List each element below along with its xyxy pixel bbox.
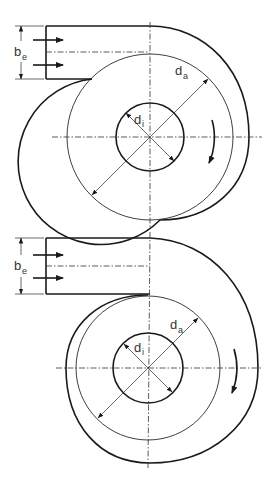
inner-diameter-subscript: i [142, 347, 144, 357]
inlet-duct [46, 26, 150, 79]
volute-diagram: b e d a d i [0, 0, 277, 489]
inner-diameter-subscript: i [142, 119, 144, 129]
volute-outer-wall [66, 238, 258, 463]
inner-diameter-label: d [134, 112, 141, 127]
inlet-width-subscript: e [22, 266, 27, 276]
outer-diameter-label: d [170, 317, 177, 332]
inlet-width-dimension: b e [14, 26, 44, 79]
inlet-width-dimension: b e [14, 238, 44, 294]
rotation-arrow-icon [232, 349, 237, 393]
rotation-arrow-icon [209, 120, 214, 163]
inner-diameter-label: d [134, 340, 141, 355]
vertical-centerline [148, 232, 150, 470]
bottom-view: b e d a d i [14, 232, 262, 470]
inlet-width-label: b [14, 44, 21, 59]
inlet-width-subscript: e [22, 52, 27, 62]
outer-diameter-subscript: a [183, 71, 188, 81]
outer-diameter-label: d [175, 63, 182, 78]
top-view: b e d a d i [14, 22, 262, 244]
outer-diameter-subscript: a [178, 325, 183, 335]
inlet-width-label: b [14, 258, 21, 273]
